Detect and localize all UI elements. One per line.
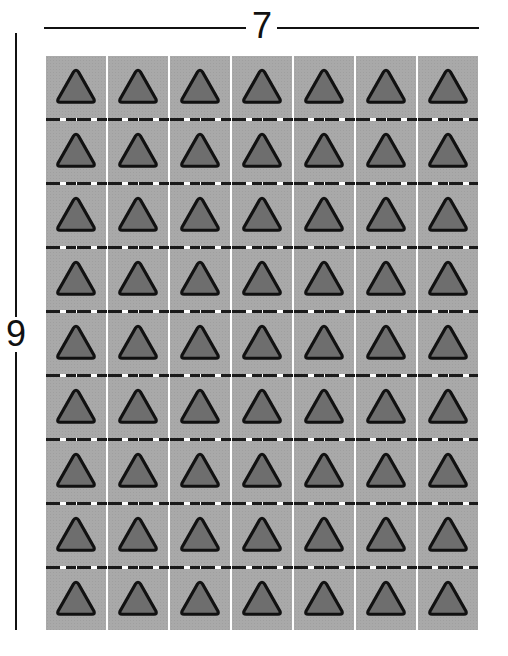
triangle-icon (365, 67, 407, 105)
tile (46, 120, 106, 182)
triangle-icon (241, 259, 283, 297)
triangle-icon (241, 451, 283, 489)
triangle-icon (427, 195, 469, 233)
tile (418, 312, 478, 374)
triangle-icon (303, 259, 345, 297)
tile (356, 504, 416, 566)
triangle-icon (365, 195, 407, 233)
row-divider (46, 182, 478, 185)
triangle-icon (427, 579, 469, 617)
tile (232, 184, 292, 246)
triangle-icon (117, 259, 159, 297)
triangle-icon (427, 387, 469, 425)
tile (46, 248, 106, 310)
triangle-icon (179, 67, 221, 105)
triangle-icon (117, 67, 159, 105)
tile (108, 312, 168, 374)
width-dimension-label: 7 (248, 6, 276, 46)
tile (294, 504, 354, 566)
triangle-icon (179, 451, 221, 489)
tile (356, 440, 416, 502)
triangle-icon (117, 323, 159, 361)
triangle-icon (179, 323, 221, 361)
triangle-icon (427, 323, 469, 361)
tile (294, 56, 354, 118)
triangle-icon (303, 515, 345, 553)
triangle-icon (365, 387, 407, 425)
triangle-icon (365, 131, 407, 169)
row-divider (46, 118, 478, 121)
triangle-icon (55, 387, 97, 425)
triangle-icon (117, 195, 159, 233)
triangle-icon (55, 67, 97, 105)
tile (294, 184, 354, 246)
row-divider (46, 566, 478, 569)
tile (418, 248, 478, 310)
tile (232, 312, 292, 374)
tile (232, 120, 292, 182)
width-dimension-line-left (44, 27, 246, 29)
tile (232, 248, 292, 310)
tile (356, 184, 416, 246)
triangle-icon (303, 67, 345, 105)
triangle-icon (427, 131, 469, 169)
triangle-icon (427, 259, 469, 297)
triangle-icon (427, 451, 469, 489)
row-divider (46, 502, 478, 505)
triangle-icon (241, 131, 283, 169)
tile (232, 504, 292, 566)
triangle-icon (179, 259, 221, 297)
height-dimension-line-bottom (15, 352, 17, 630)
tile (418, 504, 478, 566)
row-divider (46, 374, 478, 377)
tile (46, 568, 106, 630)
triangle-icon (179, 387, 221, 425)
tile (46, 312, 106, 374)
triangle-icon (179, 195, 221, 233)
triangle-icon (427, 67, 469, 105)
tile (170, 120, 230, 182)
tile (418, 120, 478, 182)
tile (294, 248, 354, 310)
tile (108, 376, 168, 438)
triangle-icon (241, 387, 283, 425)
triangle-icon (241, 579, 283, 617)
triangle-icon (55, 131, 97, 169)
tile (356, 120, 416, 182)
tile (170, 504, 230, 566)
tile (46, 376, 106, 438)
triangle-icon (303, 323, 345, 361)
tile (46, 184, 106, 246)
row-divider (46, 246, 478, 249)
tile (108, 440, 168, 502)
triangle-icon (365, 515, 407, 553)
triangle-icon (427, 515, 469, 553)
tile (356, 312, 416, 374)
triangle-icon (241, 323, 283, 361)
tile (232, 440, 292, 502)
triangle-icon (55, 259, 97, 297)
tile (294, 440, 354, 502)
tile (356, 56, 416, 118)
triangle-icon (241, 67, 283, 105)
tile (418, 184, 478, 246)
tile (418, 56, 478, 118)
tile (294, 120, 354, 182)
triangle-icon (241, 195, 283, 233)
tile (108, 120, 168, 182)
tile (46, 440, 106, 502)
tile (356, 248, 416, 310)
tile (108, 568, 168, 630)
height-dimension-label: 9 (2, 314, 30, 354)
triangle-icon (55, 515, 97, 553)
triangle-icon (55, 579, 97, 617)
tile-array (46, 56, 478, 630)
triangle-icon (303, 387, 345, 425)
tile (232, 568, 292, 630)
tile (418, 376, 478, 438)
tile (46, 56, 106, 118)
triangle-icon (303, 195, 345, 233)
tile (294, 568, 354, 630)
tile (418, 568, 478, 630)
row-divider (46, 310, 478, 313)
